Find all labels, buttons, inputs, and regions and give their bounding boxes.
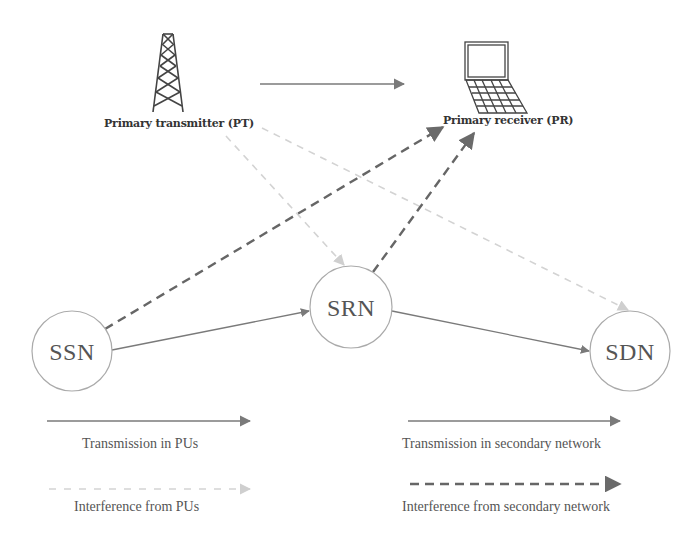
edge-pt-to-sdn-interference	[262, 128, 628, 310]
edge-pt-to-srn-interference	[226, 136, 344, 265]
laptop-icon	[465, 42, 527, 113]
pr-label: Primary receiver (PR)	[443, 114, 573, 127]
cognitive-relay-network-diagram	[0, 0, 696, 547]
tower-icon	[153, 34, 183, 112]
srn-label: SRN	[306, 296, 396, 320]
legend-interference-pu: Interference from PUs	[74, 499, 199, 515]
edge-srn-to-pr-interference	[373, 133, 474, 272]
edge-srn-to-sdn	[392, 311, 589, 351]
ssn-label: SSN	[27, 340, 117, 364]
edge-ssn-to-srn	[112, 311, 309, 350]
pt-label: Primary transmitter (PT)	[104, 117, 254, 130]
legend-transmission-secondary: Transmission in secondary network	[402, 436, 601, 452]
legend-interference-secondary: Interference from secondary network	[402, 499, 610, 515]
legend-transmission-pu: Transmission in PUs	[82, 436, 198, 452]
sdn-label: SDN	[585, 340, 675, 364]
